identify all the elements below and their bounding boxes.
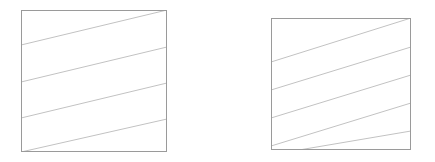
- hatched-squares-figure: [0, 0, 435, 162]
- right-panel: [271, 18, 411, 150]
- panels-group: [21, 10, 411, 152]
- left-panel-background: [21, 10, 167, 152]
- figure-canvas: [0, 0, 435, 162]
- left-panel: [21, 10, 167, 152]
